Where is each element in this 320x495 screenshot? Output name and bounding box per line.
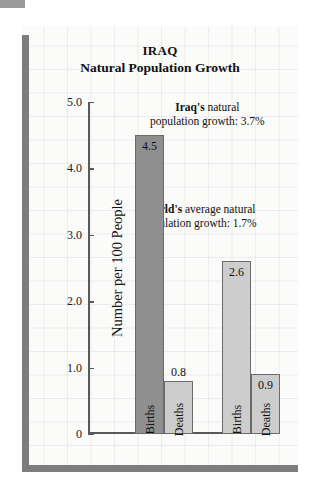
chart-title: IRAQ xyxy=(22,43,298,59)
y-tick-mark xyxy=(88,368,94,369)
panel-left-border xyxy=(22,35,29,472)
bar-iraq-deaths: 0.8Deaths xyxy=(164,381,193,434)
y-tick-mark xyxy=(88,102,94,103)
bar-category-label: Deaths xyxy=(171,403,186,436)
y-tick-label: 5.0 xyxy=(67,95,82,110)
bar-world-deaths: 0.9Deaths xyxy=(251,374,280,434)
y-tick-mark xyxy=(88,235,94,236)
y-tick-mark xyxy=(88,301,94,302)
y-tick-label: 2.0 xyxy=(67,294,82,309)
y-tick-mark xyxy=(88,168,94,169)
y-tick-label: 4.0 xyxy=(67,161,82,176)
y-tick-label: 0 xyxy=(76,427,82,442)
chart-subtitle: Natural Population Growth xyxy=(22,59,298,76)
bar-category-label: Deaths xyxy=(258,403,273,436)
bar-category-label: Births xyxy=(229,405,244,434)
bar-iraq-births: 4.5Births xyxy=(135,135,164,434)
chart-title-block: IRAQ Natural Population Growth xyxy=(22,43,298,76)
bar-category-label: Births xyxy=(142,405,157,434)
y-tick-label: 3.0 xyxy=(67,227,82,242)
y-axis-line xyxy=(88,102,90,434)
y-tick-mark xyxy=(88,434,94,435)
plot-area: Number per 100 People 5.04.03.02.01.00 4… xyxy=(88,102,278,434)
panel-bottom-border xyxy=(22,465,298,472)
bar-value-label: 0.8 xyxy=(165,365,192,380)
y-axis-title: Number per 100 People xyxy=(109,199,126,337)
bar-value-label: 0.9 xyxy=(252,378,279,393)
y-tick-label: 1.0 xyxy=(67,360,82,375)
top-left-artifact-bar xyxy=(0,0,25,8)
bar-world-births: 2.6Births xyxy=(222,261,251,434)
bar-value-label: 4.5 xyxy=(136,139,163,154)
bar-value-label: 2.6 xyxy=(223,265,250,280)
chart-panel: IRAQ Natural Population Growth Iraq's na… xyxy=(22,26,298,472)
